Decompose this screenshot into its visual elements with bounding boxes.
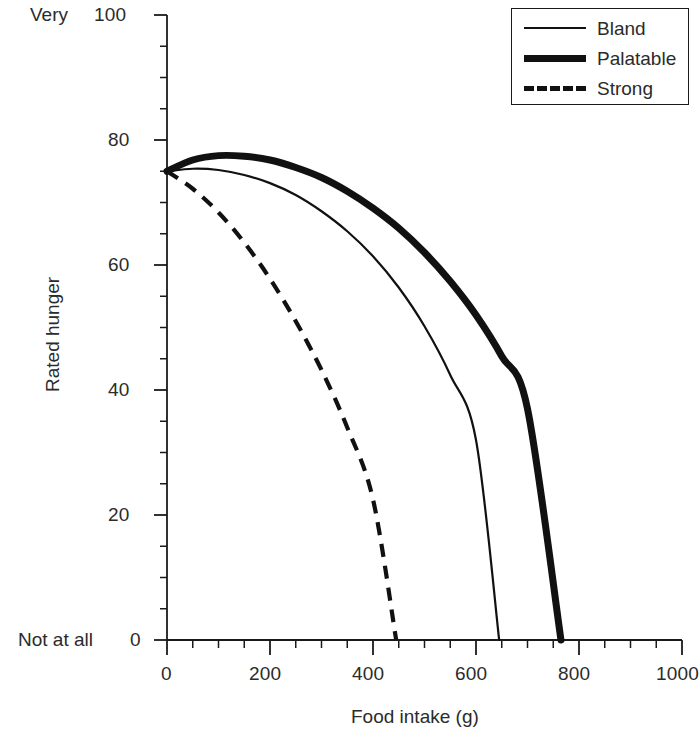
x-axis-ticks [167, 640, 682, 655]
series-line-bland [167, 169, 499, 640]
y-tick-label-100: 100 [94, 4, 126, 26]
legend-item-bland[interactable]: Bland [512, 12, 688, 44]
legend-thick-solid-line-icon [524, 51, 586, 65]
legend-thin-solid-line-icon [524, 21, 586, 35]
y-tick-label-60: 60 [108, 254, 130, 276]
chart-legend: Bland Palatable Strong [511, 8, 689, 105]
x-tick-label-800: 800 [558, 663, 590, 685]
x-tick-label-200: 200 [249, 663, 281, 685]
x-tick-label-600: 600 [455, 663, 487, 685]
legend-item-palatable[interactable]: Palatable [512, 42, 688, 74]
chart-plot-area [0, 0, 700, 756]
series-line-strong [167, 171, 396, 640]
legend-label-palatable: Palatable [597, 49, 676, 68]
y-tick-label-40: 40 [108, 379, 130, 401]
legend-label-bland: Bland [597, 19, 646, 38]
x-axis-title: Food intake (g) [351, 706, 479, 728]
y-tick-label-20: 20 [108, 504, 130, 526]
y-axis-title: Rated hunger [42, 277, 64, 392]
legend-dashed-line-icon [524, 81, 586, 95]
legend-item-strong[interactable]: Strong [512, 72, 688, 104]
y-axis-anchor-low: Not at all [18, 629, 93, 651]
x-tick-label-1000: 1000 [656, 663, 699, 685]
x-tick-label-400: 400 [352, 663, 384, 685]
data-series-layer [167, 155, 561, 640]
legend-label-strong: Strong [597, 79, 653, 98]
y-tick-label-0: 0 [130, 629, 141, 651]
y-axis-anchor-high: Very [30, 4, 68, 26]
y-axis-ticks [154, 15, 167, 640]
x-tick-label-0: 0 [161, 663, 172, 685]
y-tick-label-80: 80 [108, 129, 130, 151]
series-line-palatable [167, 155, 561, 640]
figure-container: 100 80 60 40 20 0 Very Not at all 0 200 … [0, 0, 700, 756]
